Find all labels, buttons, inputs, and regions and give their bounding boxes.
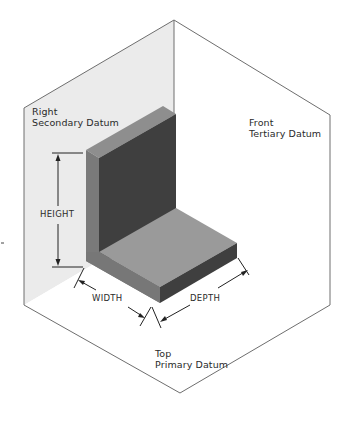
width-dimension-label: WIDTH <box>92 293 123 303</box>
top-primary-datum-label: Top Primary Datum <box>155 349 228 370</box>
right-datum-line1: Right <box>32 107 119 118</box>
height-dimension-label: HEIGHT <box>40 209 74 219</box>
top-datum-line2: Primary Datum <box>155 360 228 371</box>
front-tertiary-datum-label: Front Tertiary Datum <box>249 118 321 139</box>
top-datum-line1: Top <box>155 349 228 360</box>
right-datum-line2: Secondary Datum <box>32 118 119 129</box>
front-datum-line2: Tertiary Datum <box>249 129 321 140</box>
wall-side-face <box>86 150 99 268</box>
right-secondary-datum-label: Right Secondary Datum <box>32 107 119 128</box>
depth-dimension-label: DEPTH <box>190 293 220 303</box>
front-datum-line1: Front <box>249 118 321 129</box>
